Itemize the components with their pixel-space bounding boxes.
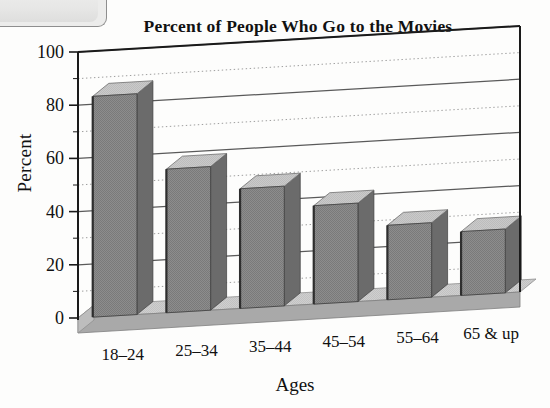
bar [93, 81, 153, 317]
bar-side-face [432, 210, 448, 297]
x-category-label: 25–34 [175, 341, 218, 360]
x-category-label: 65 & up [463, 324, 519, 343]
bar-side-face [358, 190, 374, 301]
bar-front-face [314, 203, 358, 304]
y-tick-label: 40 [46, 202, 64, 222]
bar-side-face [284, 173, 300, 306]
y-tick-labels: 020406080100 [37, 42, 64, 328]
bar-side-face [137, 81, 153, 315]
x-category-label: 18–24 [102, 345, 145, 364]
y-tick-label: 60 [46, 148, 64, 168]
x-category-label: 45–54 [323, 332, 366, 351]
gridline-minor [78, 53, 520, 79]
bar-front-face [387, 223, 431, 300]
bar-front-face [166, 167, 210, 313]
bar-chart-plot: 020406080100 18–2425–3435–4445–5455–6465… [0, 0, 550, 408]
x-category-label: 55–64 [396, 328, 439, 347]
bar [314, 190, 374, 304]
chart-page: Percent of People Who Go to the Movies P… [0, 0, 550, 408]
bar-front-face [240, 186, 284, 308]
y-tick-label: 100 [37, 42, 64, 62]
x-category-label: 35–44 [249, 337, 292, 356]
bar [166, 154, 226, 313]
bar-front-face [93, 94, 137, 317]
bars-group [93, 81, 522, 317]
y-tick-label: 0 [55, 308, 64, 328]
bar-side-face [211, 154, 227, 311]
x-tick-labels: 18–2425–3435–4445–5455–6465 & up [102, 324, 519, 365]
y-tick-label: 20 [46, 255, 64, 275]
bar [461, 216, 521, 295]
bar-front-face [461, 229, 505, 295]
bar [240, 173, 300, 308]
y-tick-label: 80 [46, 95, 64, 115]
bar [387, 210, 447, 300]
plot-top-edge [78, 26, 520, 52]
